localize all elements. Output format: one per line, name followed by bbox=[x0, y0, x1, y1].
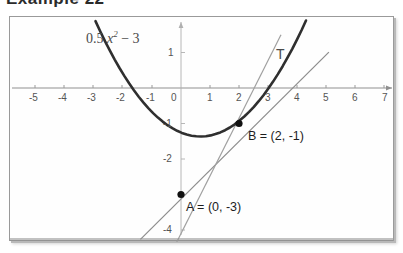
point-a-marker bbox=[177, 191, 184, 198]
x-tick-label-0: 0 bbox=[171, 92, 177, 103]
y-tick-label--1: -1 bbox=[163, 118, 172, 129]
headline-strip: Example 22 bbox=[0, 0, 403, 11]
point-a-label: A = (0, -3) bbox=[186, 200, 241, 214]
x-tick-label-4: 4 bbox=[294, 92, 300, 103]
x-tick-label--1: -1 bbox=[146, 92, 155, 103]
function-tail: − 3 bbox=[121, 31, 139, 46]
figure-root: Example 22 bbox=[0, 0, 403, 253]
x-tick-label--3: -3 bbox=[87, 92, 96, 103]
point-b-marker bbox=[235, 120, 242, 127]
x-tick-label-2: 2 bbox=[236, 92, 242, 103]
x-tick-label--4: -4 bbox=[58, 92, 67, 103]
page-title: Example 22 bbox=[6, 0, 105, 9]
x-tick-label-1: 1 bbox=[207, 92, 213, 103]
x-tick-label--5: -5 bbox=[29, 92, 38, 103]
function-label: 0.5 x2 − 3 bbox=[86, 29, 140, 47]
y-tick-label--4: -4 bbox=[163, 224, 172, 235]
point-b-label: B = (2, -1) bbox=[248, 129, 304, 143]
x-tick-label--2: -2 bbox=[116, 92, 125, 103]
y-tick-label--2: -2 bbox=[163, 153, 172, 164]
y-tick-label-1: 1 bbox=[168, 47, 174, 58]
x-tick-label-6: 6 bbox=[352, 92, 358, 103]
y-axis-ticks bbox=[181, 53, 185, 231]
x-axis bbox=[12, 85, 392, 91]
tangent-label: T bbox=[276, 46, 285, 62]
y-axis bbox=[179, 22, 185, 235]
plot-frame: 0.5 x2 − 3 T B = (2, -1) A = (0, -3) -5 … bbox=[9, 16, 394, 241]
function-coefficient: 0.5 bbox=[86, 31, 104, 46]
x-tick-label-7: 7 bbox=[382, 92, 388, 103]
x-tick-label-3: 3 bbox=[265, 92, 271, 103]
x-tick-label-5: 5 bbox=[323, 92, 329, 103]
